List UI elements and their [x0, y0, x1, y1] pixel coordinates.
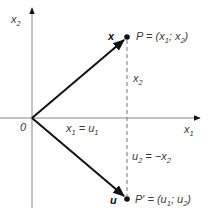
reflection-diagram: x2 x1 0 x u P = (x1; x2) P′ = (u1; u2) x… — [0, 0, 210, 222]
origin-label: 0 — [20, 121, 27, 133]
y-axis-label: x2 — [10, 13, 22, 28]
point-p-prime — [124, 196, 130, 202]
vector-x-label: x — [107, 30, 115, 42]
x-axis-label: x1 — [183, 123, 194, 138]
vector-u-label: u — [110, 194, 117, 206]
point-p-prime-label: P′ = (u1; u2) — [135, 193, 191, 208]
x2-height-label: x2 — [132, 72, 144, 87]
u2-equals-neg-x2-label: u2 = −x2 — [132, 150, 172, 165]
x1-equals-u1-label: x1 = u1 — [65, 122, 99, 137]
point-p-label: P = (x1; x2) — [136, 30, 189, 45]
vector-x — [32, 40, 124, 118]
point-p — [124, 34, 130, 40]
